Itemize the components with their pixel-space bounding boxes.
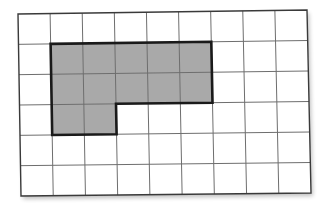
shaded-cell [84,104,117,135]
shaded-cell [148,73,181,104]
shaded-cell [180,72,213,103]
shaded-cell [83,73,116,104]
shaded-cell [51,44,84,75]
shaded-cell [83,43,116,74]
grid-figure [0,0,326,205]
shaded-cell [179,42,212,73]
grid-diagram [0,0,326,205]
shaded-cell [147,42,180,73]
shaded-cell [115,43,148,74]
shaded-cell [51,74,84,105]
shaded-cell [115,73,148,104]
shaded-cell [52,104,85,135]
